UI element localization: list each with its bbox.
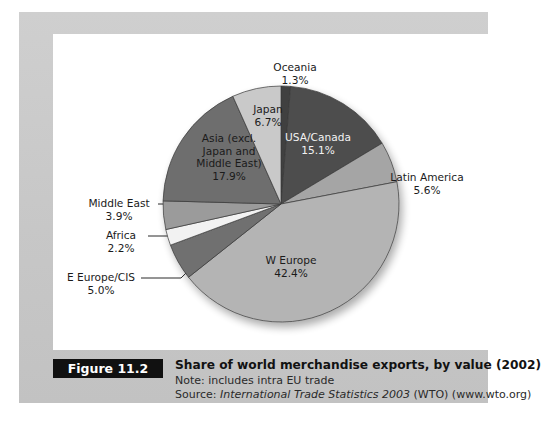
figure-caption: Figure 11.2 Share of world merchandise e… (53, 359, 497, 411)
figure-number-badge: Figure 11.2 (53, 359, 163, 378)
label-usa-canada: USA/Canada15.1% (275, 131, 361, 156)
label-middle-east-value: 3.9% (106, 210, 133, 222)
label-japan-name: Japan (253, 103, 283, 115)
label-asia: Asia (excl.Japan andMiddle East)17.9% (187, 132, 271, 182)
label-africa: Africa2.2% (94, 229, 148, 254)
label-asia-line3: Middle East) (196, 157, 261, 169)
label-oceania: Oceania1.3% (253, 61, 337, 86)
label-usa-canada-name: USA/Canada (285, 131, 351, 143)
label-usa-canada-value: 15.1% (301, 144, 335, 156)
label-oceania-value: 1.3% (282, 74, 309, 86)
label-middle-east: Middle East3.9% (79, 197, 159, 222)
caption-note: Note: includes intra EU trade (175, 374, 505, 388)
figure-panel: Oceania1.3% Japan6.7% USA/Canada15.1% La… (19, 12, 488, 403)
caption-source-prefix: Source: (175, 388, 220, 401)
label-asia-line1: Asia (excl. (202, 132, 256, 144)
chart-canvas: Oceania1.3% Japan6.7% USA/Canada15.1% La… (53, 34, 490, 350)
label-japan-value: 6.7% (255, 116, 282, 128)
label-e-europe-cis-value: 5.0% (88, 284, 115, 296)
label-oceania-name: Oceania (273, 61, 316, 73)
label-middle-east-name: Middle East (88, 197, 149, 209)
caption-source: Source: International Trade Statistics 2… (175, 388, 505, 402)
label-asia-line2: Japan and (203, 145, 256, 157)
label-latin-america: Latin America5.6% (379, 171, 475, 196)
label-w-europe-value: 42.4% (274, 267, 308, 279)
caption-text-block: Share of world merchandise exports, by v… (175, 358, 505, 402)
caption-source-suffix: (WTO) (www.wto.org) (410, 388, 531, 401)
label-w-europe: W Europe42.4% (252, 254, 330, 279)
label-africa-value: 2.2% (108, 242, 135, 254)
label-latin-america-name: Latin America (390, 171, 463, 183)
caption-source-title: International Trade Statistics 2003 (220, 388, 410, 401)
label-japan: Japan6.7% (237, 103, 299, 128)
label-w-europe-name: W Europe (265, 254, 316, 266)
label-latin-america-value: 5.6% (414, 184, 441, 196)
label-africa-name: Africa (106, 229, 136, 241)
label-e-europe-cis-name: E Europe/CIS (67, 271, 135, 283)
label-e-europe-cis: E Europe/CIS5.0% (60, 271, 142, 296)
label-asia-value: 17.9% (212, 170, 246, 182)
caption-title: Share of world merchandise exports, by v… (175, 358, 505, 373)
